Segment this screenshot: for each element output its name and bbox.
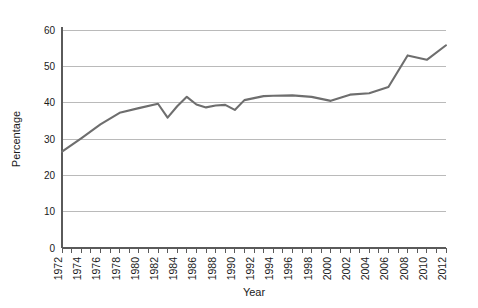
y-tick-label: 10 [44, 206, 56, 217]
y-tick-label: 0 [49, 243, 55, 254]
x-axis-tickmarks [62, 248, 446, 253]
x-axis-tick-labels: 1972197419761978198019821984198619881990… [52, 257, 448, 281]
x-tick-label: 1994 [263, 257, 275, 281]
line-chart: 0102030405060 19721974197619781980198219… [0, 0, 478, 308]
y-tick-label: 60 [44, 25, 56, 36]
x-tick-label: 1990 [225, 257, 237, 281]
x-tick-label: 1998 [302, 257, 314, 281]
x-tick-label: 2004 [359, 257, 371, 281]
y-tick-label: 20 [44, 170, 56, 181]
x-tick-label: 2000 [321, 257, 333, 281]
x-tick-label: 1988 [206, 257, 218, 281]
gridlines-group [62, 30, 446, 212]
x-tick-label: 1992 [244, 257, 256, 281]
x-tick-label: 2006 [378, 257, 390, 281]
y-tick-label: 40 [44, 97, 56, 108]
y-axis-title: Percentage [10, 111, 22, 167]
x-tick-label: 1976 [90, 257, 102, 281]
x-tick-label: 1982 [148, 257, 160, 281]
y-tick-label: 50 [44, 61, 56, 72]
chart-canvas: 0102030405060 19721974197619781980198219… [0, 0, 478, 308]
y-axis-tick-labels: 0102030405060 [44, 25, 56, 254]
data-series-line [62, 45, 446, 151]
x-tick-label: 1996 [282, 257, 294, 281]
x-tick-label: 2012 [436, 257, 448, 281]
x-tick-label: 1984 [167, 257, 179, 281]
x-axis-title: Year [243, 286, 266, 298]
x-tick-label: 2002 [340, 257, 352, 281]
x-tick-label: 1974 [71, 257, 83, 281]
y-tick-label: 30 [44, 134, 56, 145]
x-tick-label: 1986 [186, 257, 198, 281]
x-tick-label: 1978 [110, 257, 122, 281]
x-tick-label: 2010 [417, 257, 429, 281]
x-tick-label: 1980 [129, 257, 141, 281]
x-tick-label: 2008 [398, 257, 410, 281]
x-tick-label: 1972 [52, 257, 64, 281]
